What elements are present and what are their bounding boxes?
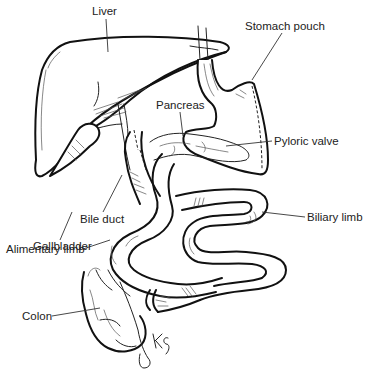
leader-pancreas: [180, 112, 183, 136]
label-pancreas: Pancreas: [156, 100, 205, 112]
anatomy-diagram: Liver Stomach pouch Pancreas Pyloric val…: [0, 0, 371, 370]
leader-bile-duct: [103, 175, 122, 212]
anastomosis-shape: [146, 290, 200, 312]
colon-shape: [82, 268, 150, 368]
anatomy-illustration: [0, 0, 371, 370]
label-liver: Liver: [92, 6, 117, 18]
label-alimentary-limb: Alimentary limb: [6, 244, 85, 256]
label-colon: Colon: [22, 311, 52, 323]
alimentary-limb-shape: [111, 154, 222, 298]
stomach-shape: [183, 60, 268, 174]
label-biliary-limb: Biliary limb: [307, 212, 363, 224]
label-pyloric-valve: Pyloric valve: [274, 136, 339, 148]
leader-gallbladder: [60, 212, 72, 240]
leader-colon: [52, 308, 100, 316]
leader-stomach-pouch: [252, 33, 282, 80]
artist-signature: [153, 334, 169, 354]
leader-biliary-limb: [262, 212, 305, 217]
label-bile-duct: Bile duct: [80, 214, 124, 226]
label-stomach-pouch: Stomach pouch: [245, 21, 325, 33]
